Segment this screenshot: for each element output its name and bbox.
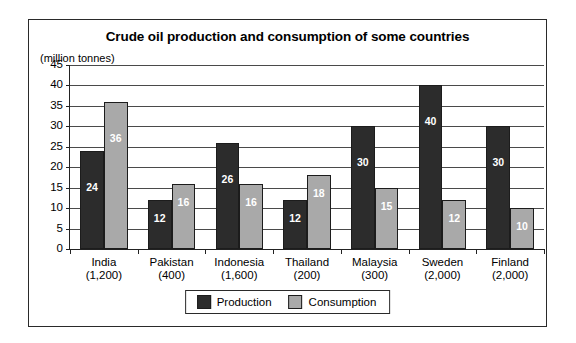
category-sublabel: (1,200) bbox=[70, 269, 138, 282]
x-axis-category-label: Indonesia(1,600) bbox=[205, 256, 273, 282]
bar-value-label: 36 bbox=[105, 133, 127, 144]
bar-group: 1218 bbox=[273, 65, 341, 249]
category-sublabel: (200) bbox=[273, 269, 341, 282]
y-axis-tick-label: 15 bbox=[50, 182, 63, 194]
category-sublabel: (400) bbox=[138, 269, 206, 282]
bar-group: 3015 bbox=[341, 65, 409, 249]
x-axis-category-label: Pakistan(400) bbox=[138, 256, 206, 282]
bar-production[interactable]: 30 bbox=[351, 126, 375, 249]
plot-area: 454035302520151050 243612162616121830154… bbox=[69, 65, 544, 250]
category-name: Malaysia bbox=[352, 256, 397, 268]
bar-group: 4012 bbox=[409, 65, 477, 249]
bar-consumption[interactable]: 16 bbox=[172, 184, 196, 249]
bar-consumption[interactable]: 12 bbox=[442, 200, 466, 249]
y-axis-tick-label: 30 bbox=[50, 121, 63, 133]
x-axis-tick-mark bbox=[341, 249, 342, 254]
bar-value-label: 15 bbox=[376, 201, 398, 212]
bar-value-label: 10 bbox=[511, 221, 533, 232]
bar-production[interactable]: 24 bbox=[80, 151, 104, 249]
bar-group: 1216 bbox=[138, 65, 206, 249]
bar-production[interactable]: 26 bbox=[216, 143, 240, 249]
bar-value-label: 24 bbox=[81, 182, 103, 193]
chart-legend: ProductionConsumption bbox=[185, 290, 391, 314]
bar-value-label: 16 bbox=[240, 197, 262, 208]
x-axis-category-label: India(1,200) bbox=[70, 256, 138, 282]
category-sublabel: (1,600) bbox=[205, 269, 273, 282]
bar-group: 3010 bbox=[476, 65, 544, 249]
bar-value-label: 12 bbox=[443, 213, 465, 224]
chart-frame: Crude oil production and consumption of … bbox=[28, 19, 547, 327]
y-axis-tick-label: 25 bbox=[50, 141, 63, 153]
y-axis-tick-label: 45 bbox=[50, 59, 63, 71]
x-axis-tick-mark bbox=[138, 249, 139, 254]
y-axis-tick-label: 35 bbox=[50, 100, 63, 112]
bar-value-label: 12 bbox=[284, 213, 306, 224]
bar-consumption[interactable]: 36 bbox=[104, 102, 128, 249]
category-sublabel: (300) bbox=[341, 269, 409, 282]
bar-production[interactable]: 40 bbox=[419, 85, 443, 249]
x-axis-tick-mark bbox=[70, 249, 71, 254]
bar-production[interactable]: 12 bbox=[148, 200, 172, 249]
bar-value-label: 30 bbox=[352, 157, 374, 168]
x-axis-tick-mark bbox=[273, 249, 274, 254]
legend-swatch-consumption bbox=[289, 295, 303, 309]
y-axis-tick-label: 10 bbox=[50, 202, 63, 214]
bar-value-label: 40 bbox=[420, 116, 442, 127]
x-axis-category-label: Malaysia(300) bbox=[341, 256, 409, 282]
x-axis-tick-mark bbox=[409, 249, 410, 254]
bar-production[interactable]: 30 bbox=[486, 126, 510, 249]
category-name: Thailand bbox=[285, 256, 329, 268]
legend-item-consumption[interactable]: Consumption bbox=[289, 295, 377, 309]
category-sublabel: (2,000) bbox=[409, 269, 477, 282]
category-name: India bbox=[91, 256, 116, 268]
x-axis-category-label: Sweden(2,000) bbox=[409, 256, 477, 282]
y-axis-tick-label: 0 bbox=[57, 243, 63, 255]
bar-value-label: 12 bbox=[149, 213, 171, 224]
bar-consumption[interactable]: 10 bbox=[510, 208, 534, 249]
x-axis-tick-mark bbox=[205, 249, 206, 254]
chart-title: Crude oil production and consumption of … bbox=[29, 29, 546, 44]
category-name: Indonesia bbox=[214, 256, 264, 268]
bar-group: 2616 bbox=[205, 65, 273, 249]
bar-production[interactable]: 12 bbox=[283, 200, 307, 249]
bar-value-label: 26 bbox=[217, 174, 239, 185]
x-axis-category-label: Thailand(200) bbox=[273, 256, 341, 282]
y-axis-tick-label: 20 bbox=[50, 161, 63, 173]
y-axis-tick-label: 40 bbox=[50, 80, 63, 92]
bar-value-label: 18 bbox=[308, 188, 330, 199]
x-axis-tick-mark bbox=[476, 249, 477, 254]
x-axis-category-label: Finland(2,000) bbox=[476, 256, 544, 282]
legend-item-production[interactable]: Production bbox=[197, 295, 272, 309]
bar-value-label: 30 bbox=[487, 157, 509, 168]
bar-consumption[interactable]: 18 bbox=[307, 175, 331, 249]
x-axis-tick-mark bbox=[544, 249, 545, 254]
category-name: Sweden bbox=[422, 256, 464, 268]
category-name: Pakistan bbox=[150, 256, 194, 268]
category-sublabel: (2,000) bbox=[476, 269, 544, 282]
bar-consumption[interactable]: 16 bbox=[239, 184, 263, 249]
y-axis-tick-label: 5 bbox=[57, 223, 63, 235]
legend-swatch-production bbox=[197, 295, 211, 309]
bars-layer: 2436121626161218301540123010 bbox=[70, 65, 544, 249]
legend-label: Production bbox=[217, 296, 272, 308]
bar-group: 2436 bbox=[70, 65, 138, 249]
bar-value-label: 16 bbox=[173, 197, 195, 208]
bar-consumption[interactable]: 15 bbox=[375, 188, 399, 249]
legend-label: Consumption bbox=[309, 296, 377, 308]
category-name: Finland bbox=[491, 256, 529, 268]
